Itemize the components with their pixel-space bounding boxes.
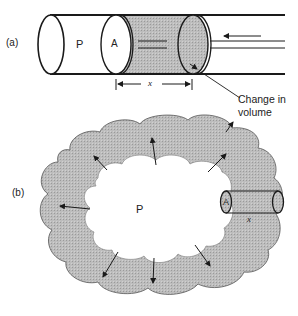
panel-b-pressure-label: P (136, 204, 143, 215)
panel-a-cylinder (38, 15, 285, 98)
panel-a-displacement-label: x (148, 79, 152, 88)
panel-b-label: (b) (12, 188, 24, 198)
callout-line-1: Change in (238, 93, 286, 106)
panel-b-displacement-label: x (247, 215, 251, 224)
panel-a-label: (a) (6, 38, 18, 48)
panel-b-area-label: A (223, 198, 229, 207)
figure: (a) P A x Change in volume (b) P A x (0, 0, 298, 316)
panel-a-area-label: A (111, 39, 118, 49)
callout-line-2: volume (238, 106, 286, 119)
diagram-canvas (0, 0, 298, 316)
change-in-volume-callout: Change in volume (238, 93, 286, 119)
callout-leader (204, 74, 240, 98)
panel-a-pressure-label: P (76, 39, 83, 50)
panel-b-cloud (40, 115, 283, 294)
